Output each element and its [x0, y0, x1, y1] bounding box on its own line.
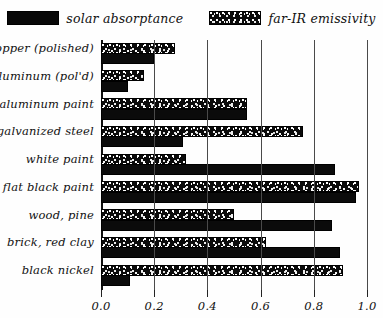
gridline-0.4 [207, 40, 208, 290]
x-axis-ticks [101, 290, 367, 298]
y-axis-label-white-paint: white paint [26, 152, 94, 166]
bar-solar-absorptance-8 [101, 275, 130, 286]
legend-entry-far-ir-emissivity: far-IR emissivity [209, 11, 375, 26]
legend-entry-solar-absorptance: solar absorptance [7, 11, 183, 26]
y-axis-label-wood-pine: wood, pine [28, 208, 94, 222]
bar-far-ir-emissivity-1 [101, 70, 144, 81]
x-axis-tick-labels: 0.00.20.40.60.81.0 [0, 299, 383, 317]
x-tick-1.0 [367, 290, 368, 297]
gridline-0.2 [154, 40, 155, 290]
legend-swatch-solar-absorptance [7, 11, 59, 25]
y-axis-label-flat-black-paint: flat black paint [3, 180, 94, 194]
y-axis-label-aluminum-pol-d-: aluminum (pol'd) [0, 69, 94, 83]
bar-far-ir-emissivity-8 [101, 265, 343, 276]
y-axis-label-aluminum-paint: aluminum paint [0, 97, 94, 111]
legend-label-solar-absorptance: solar absorptance [66, 11, 183, 26]
bar-far-ir-emissivity-3 [101, 126, 303, 137]
gridline-0.6 [261, 40, 262, 290]
bar-solar-absorptance-5 [101, 192, 356, 203]
legend-label-far-ir-emissivity: far-IR emissivity [268, 11, 375, 26]
y-axis-label-copper-polished-: copper (polished) [0, 41, 94, 55]
bar-solar-absorptance-6 [101, 220, 332, 231]
x-tick-label-0.8: 0.8 [304, 299, 323, 313]
gridline-0.8 [314, 40, 315, 290]
y-axis-label-brick-red-clay: brick, red clay [7, 235, 94, 249]
x-tick-0.4 [207, 290, 208, 297]
bar-solar-absorptance-2 [101, 109, 247, 120]
y-axis-label-galvanized-steel: galvanized steel [0, 124, 94, 138]
bar-solar-absorptance-4 [101, 164, 335, 175]
bar-far-ir-emissivity-2 [101, 98, 247, 109]
chart-root: solar absorptance far-IR emissivity copp… [0, 0, 383, 318]
bar-solar-absorptance-3 [101, 136, 183, 147]
x-tick-0.2 [154, 290, 155, 297]
bar-solar-absorptance-7 [101, 247, 340, 258]
chart-legend: solar absorptance far-IR emissivity [0, 6, 383, 30]
bar-solar-absorptance-0 [101, 53, 154, 64]
y-axis-label-black-nickel: black nickel [22, 263, 94, 277]
x-tick-label-1.0: 1.0 [357, 299, 376, 313]
plot-area [101, 40, 367, 290]
x-tick-0.6 [261, 290, 262, 297]
gridline-1.0 [367, 40, 368, 290]
x-tick-0.0 [101, 290, 102, 297]
bar-solar-absorptance-1 [101, 81, 128, 92]
x-tick-0.8 [314, 290, 315, 297]
bar-far-ir-emissivity-7 [101, 237, 266, 248]
bar-far-ir-emissivity-0 [101, 43, 175, 54]
x-tick-label-0.4: 0.4 [198, 299, 217, 313]
bar-far-ir-emissivity-6 [101, 209, 234, 220]
legend-swatch-far-ir-emissivity [209, 11, 261, 25]
x-tick-label-0.6: 0.6 [251, 299, 270, 313]
bar-far-ir-emissivity-5 [101, 181, 359, 192]
x-tick-label-0.2: 0.2 [145, 299, 164, 313]
bar-far-ir-emissivity-4 [101, 154, 186, 165]
y-axis-labels: copper (polished)aluminum (pol'd)aluminu… [0, 40, 98, 290]
x-tick-label-0.0: 0.0 [91, 299, 110, 313]
